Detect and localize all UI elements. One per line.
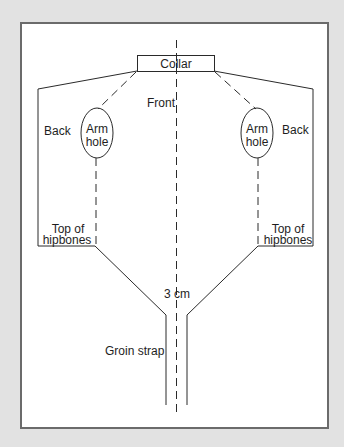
pattern-diagram: Collar Arm hole Arm hole Front Back Back… [0, 0, 352, 447]
groin-strap-label: Groin strap [105, 344, 165, 358]
left-armhole-label-1: Arm [86, 122, 108, 136]
collar-label: Collar [160, 57, 191, 71]
hip-left-label-2: hipbones [43, 233, 92, 247]
strap-width-label: 3 cm [164, 287, 190, 301]
hip-right-label-2: hipbones [264, 233, 313, 247]
front-label: Front [147, 96, 176, 110]
right-armhole-label-1: Arm [246, 122, 268, 136]
right-armhole-label-2: hole [246, 135, 269, 149]
back-right-label: Back [282, 123, 310, 137]
back-left-label: Back [44, 124, 72, 138]
left-armhole-label-2: hole [86, 135, 109, 149]
